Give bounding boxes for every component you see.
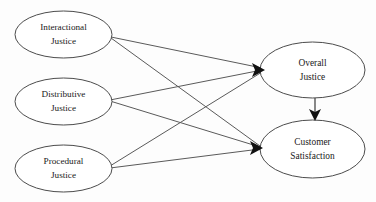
edge-distributive-to-overall: [110, 70, 262, 100]
diagram-canvas: Interactional Justice Distributive Justi…: [0, 0, 376, 202]
node-overall-justice[interactable]: Overall Justice: [260, 42, 365, 98]
node-shape-distributive-justice: [15, 78, 112, 125]
node-shape-interactional-justice: [15, 11, 112, 58]
path-diagram: Interactional Justice Distributive Justi…: [0, 0, 376, 202]
node-interactional-justice[interactable]: Interactional Justice: [15, 11, 112, 58]
node-label-interactional-line2: Justice: [51, 36, 76, 46]
node-label-overall-line1: Overall: [298, 58, 327, 68]
node-label-procedural-line2: Justice: [51, 170, 76, 180]
node-label-distributive-line1: Distributive: [42, 89, 86, 99]
node-label-procedural-line1: Procedural: [44, 156, 84, 166]
node-customer-satisfaction[interactable]: Customer Satisfaction: [260, 120, 365, 178]
node-label-overall-line2: Justice: [300, 72, 326, 82]
node-label-distributive-line2: Justice: [51, 103, 76, 113]
node-shape-procedural-justice: [15, 145, 112, 192]
node-shape-customer-satisfaction: [260, 120, 365, 178]
node-procedural-justice[interactable]: Procedural Justice: [15, 145, 112, 192]
node-label-satisfaction-line1: Customer: [294, 137, 331, 147]
edge-interactional-to-satisfaction: [111, 38, 260, 146]
node-distributive-justice[interactable]: Distributive Justice: [15, 78, 112, 125]
node-shape-overall-justice: [260, 42, 365, 98]
node-label-interactional-line1: Interactional: [40, 22, 87, 32]
edge-interactional-to-overall: [111, 37, 262, 68]
node-label-satisfaction-line2: Satisfaction: [290, 151, 335, 161]
edge-distributive-to-satisfaction: [110, 101, 260, 147]
